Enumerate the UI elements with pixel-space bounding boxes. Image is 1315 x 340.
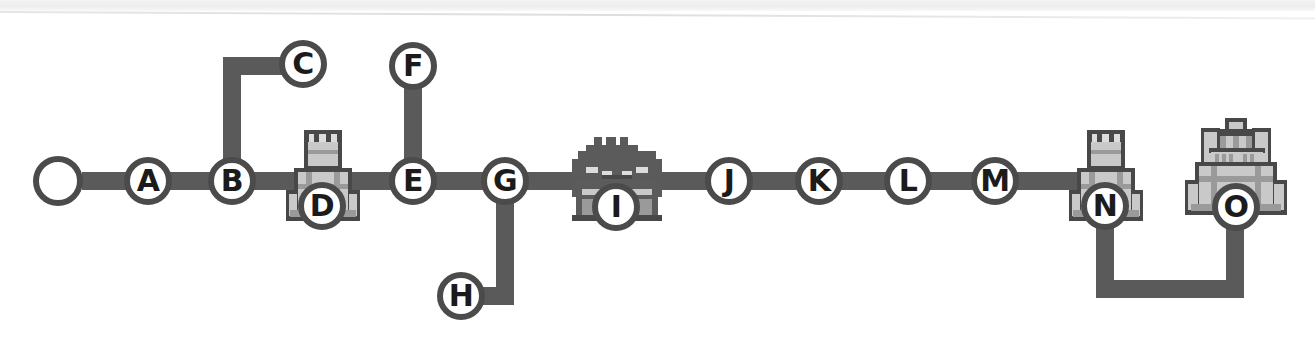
map-node-c[interactable]: C bbox=[279, 40, 327, 88]
start-node[interactable] bbox=[33, 156, 83, 206]
scan-artifact-band bbox=[0, 0, 1315, 11]
map-node-d[interactable]: D bbox=[298, 182, 346, 230]
map-node-b[interactable]: B bbox=[208, 157, 256, 205]
map-node-j[interactable]: J bbox=[705, 157, 753, 205]
map-node-l[interactable]: L bbox=[884, 157, 932, 205]
scan-artifact-line bbox=[0, 11, 1315, 19]
map-node-i[interactable]: I bbox=[592, 183, 640, 231]
edge-b-c-horizontal bbox=[223, 57, 285, 75]
map-node-f[interactable]: F bbox=[389, 42, 437, 90]
map-node-g[interactable]: G bbox=[481, 157, 529, 205]
map-node-a[interactable]: A bbox=[124, 157, 172, 205]
map-node-o[interactable]: O bbox=[1212, 183, 1260, 231]
world-map-canvas: A B C D E F G H I J K L M N O bbox=[0, 0, 1315, 340]
map-node-h[interactable]: H bbox=[437, 272, 485, 320]
map-node-e[interactable]: E bbox=[389, 157, 437, 205]
edge-n-o-bottom-horizontal bbox=[1096, 280, 1244, 298]
map-node-n[interactable]: N bbox=[1081, 182, 1129, 230]
map-node-k[interactable]: K bbox=[795, 157, 843, 205]
map-node-m[interactable]: M bbox=[971, 157, 1019, 205]
